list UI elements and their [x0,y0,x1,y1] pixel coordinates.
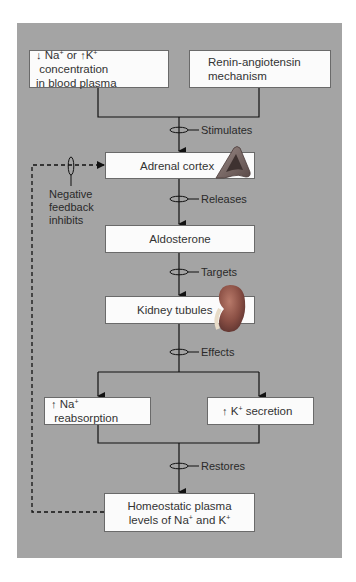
label-restores: Restores [201,460,245,473]
label-targets: Targets [201,266,237,279]
label-stimulates: Stimulates [201,124,252,137]
kidney-icon [212,283,248,335]
k-secretion-box: ↑ K+ secretion [207,397,314,425]
aldosterone-box: Aldosterone [105,225,255,253]
label-effects: Effects [201,346,234,359]
renin-angiotensin-box: Renin-angiotensin mechanism [189,50,331,88]
down-arrow-icon: ↓ [36,48,42,62]
adrenal-gland-icon [212,144,254,182]
up-arrow-icon: ↑ [51,397,57,411]
ion-concentration-box: ↓ Na+ or ↑K+ concentration in blood plas… [29,50,169,88]
up-arrow-icon: ↑ [222,404,228,418]
negative-feedback-label: Negative feedback inhibits [49,188,94,227]
homeostatic-levels-box: Homeostatic plasma levels of Na+ and K+ [104,493,255,532]
label-releases: Releases [201,193,247,206]
na-reabsorption-box: ↑ Na+ reabsorption [44,397,151,425]
